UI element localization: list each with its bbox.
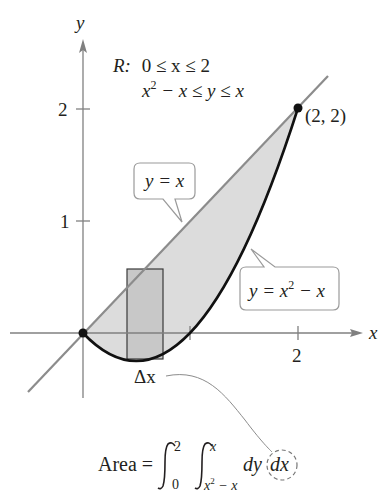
svg-text:R: 0 ≤ x ≤ 2: R: 0 ≤ x ≤ 2 xyxy=(112,55,210,76)
x-tick-label-2: 2 xyxy=(292,345,302,366)
y-tick-label-1: 1 xyxy=(60,211,70,232)
region-y-bounds-rest: − x ≤ y ≤ x xyxy=(156,80,244,101)
svg-text:x2 − x ≤ y ≤ x: x2 − x ≤ y ≤ x xyxy=(141,78,244,101)
inner-lower-rest: − x xyxy=(215,478,238,493)
region-description: R: 0 ≤ x ≤ 2 x2 − x ≤ y ≤ x xyxy=(112,55,244,101)
differential-dx: dx xyxy=(270,453,289,475)
delta-x-label: Δx xyxy=(134,366,156,387)
y-tick-label-2: 2 xyxy=(58,99,68,120)
x-axis-label: x xyxy=(368,322,378,343)
origin-point xyxy=(79,329,88,338)
callout-parabola-rest: − x xyxy=(294,280,325,301)
y-axis-label: y xyxy=(74,12,85,33)
integral-region-diagram: x y 2 1 2 (2, 2) R: 0 ≤ x ≤ 2 x2 − x ≤ y… xyxy=(0,0,381,497)
callout-line-text: y = x xyxy=(143,170,185,191)
intersection-point-2-2 xyxy=(294,104,303,113)
region-name: R: xyxy=(112,55,131,76)
point-label-2-2: (2, 2) xyxy=(305,105,346,127)
shaded-region-R xyxy=(83,108,298,361)
svg-text:x2 − x: x2 − x xyxy=(203,476,238,493)
delta-x-connector xyxy=(166,375,272,452)
formula-prefix: Area = xyxy=(98,453,153,475)
callout-line-label: y = x xyxy=(134,163,195,222)
svg-text:y = x2 − x: y = x2 − x xyxy=(247,278,326,301)
callout-parabola-lhs: y = x xyxy=(247,280,289,301)
inner-upper-limit: x xyxy=(209,439,217,454)
outer-lower-limit: 0 xyxy=(172,477,179,492)
callout-parabola-label: y = x2 − x xyxy=(240,249,339,310)
outer-upper-limit: 2 xyxy=(174,439,181,454)
region-x-bounds: 0 ≤ x ≤ 2 xyxy=(142,55,210,76)
integrand-dy: dy xyxy=(243,453,262,476)
